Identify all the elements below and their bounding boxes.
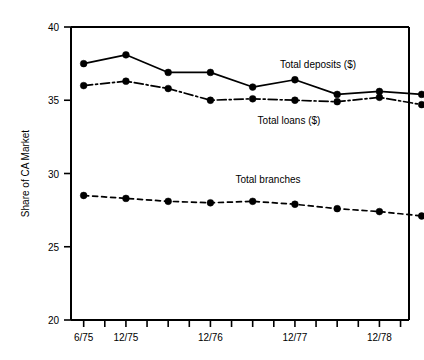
x-tick-label-12-75: 12/75 — [113, 332, 138, 343]
x-tick-label-12-77: 12/77 — [282, 332, 307, 343]
line-chart: 40 35 30 25 20 Share of CA Market 6/7512… — [0, 0, 424, 360]
chart-container: 40 35 30 25 20 Share of CA Market 6/7512… — [0, 0, 424, 360]
data-point-marker — [123, 78, 130, 85]
data-point-marker — [292, 201, 299, 208]
data-point-marker — [80, 82, 87, 89]
y-tick-label-20: 20 — [48, 315, 60, 326]
series-total-branches — [80, 192, 424, 219]
x-tick-label-6-75: 6/75 — [74, 332, 94, 343]
y-ticks-group — [64, 27, 71, 320]
x-ticks-group — [84, 320, 401, 327]
data-point-marker — [334, 205, 341, 212]
data-point-marker — [123, 51, 130, 58]
annotation-total-loans: Total loans ($) — [258, 115, 321, 126]
series-total-deposits — [80, 51, 424, 97]
data-point-marker — [334, 91, 341, 98]
x-tick-label-12-78: 12/78 — [367, 332, 392, 343]
data-point-marker — [292, 76, 299, 83]
data-point-marker — [418, 101, 424, 108]
x-tick-label-12-76: 12/76 — [198, 332, 223, 343]
y-tick-label-25: 25 — [48, 242, 60, 253]
annotation-total-branches: Total branches — [235, 174, 300, 185]
annotation-total-deposits: Total deposits ($) — [280, 59, 356, 70]
y-tick-label-40: 40 — [48, 22, 60, 33]
series-group — [80, 51, 424, 219]
y-tick-labels-group: 40 35 30 25 20 — [48, 22, 60, 326]
data-point-marker — [165, 198, 172, 205]
y-axis-title: Share of CA Market — [20, 130, 31, 217]
data-point-marker — [165, 69, 172, 76]
y-tick-label-30: 30 — [48, 169, 60, 180]
series-total-loans — [80, 78, 424, 108]
data-point-marker — [80, 192, 87, 199]
data-point-marker — [249, 198, 256, 205]
data-point-marker — [249, 84, 256, 91]
data-point-marker — [418, 213, 424, 220]
data-point-marker — [376, 208, 383, 215]
data-point-marker — [207, 97, 214, 104]
data-point-marker — [376, 94, 383, 101]
data-point-marker — [334, 98, 341, 105]
data-point-marker — [123, 195, 130, 202]
x-tick-labels-group: 6/7512/7512/7612/7712/78 — [74, 332, 392, 343]
data-point-marker — [207, 69, 214, 76]
data-point-marker — [418, 91, 424, 98]
y-tick-label-35: 35 — [48, 95, 60, 106]
data-point-marker — [292, 97, 299, 104]
data-point-marker — [249, 95, 256, 102]
data-point-marker — [80, 60, 87, 67]
data-point-marker — [165, 85, 172, 92]
data-point-marker — [207, 199, 214, 206]
